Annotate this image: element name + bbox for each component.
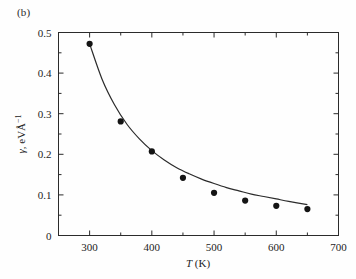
fitted-curve bbox=[90, 44, 308, 205]
data-point-marker bbox=[180, 175, 186, 181]
x-axis-tick-labels: 300400500600700 bbox=[81, 241, 347, 253]
data-point-marker bbox=[304, 206, 310, 212]
x-axis-title: T (K) bbox=[186, 257, 210, 270]
data-point-marker bbox=[242, 197, 248, 203]
y-axis-title: γ, eVÅ−1 bbox=[14, 114, 28, 153]
x-tick-label: 300 bbox=[81, 241, 98, 253]
axes-frame bbox=[59, 33, 339, 236]
y-tick-label: 0 bbox=[46, 230, 52, 242]
data-point-marker bbox=[273, 203, 279, 209]
figure-panel: (b) 300400500600700 00.10.20.30.40.5 T (… bbox=[0, 0, 356, 279]
data-point-marker bbox=[87, 41, 93, 47]
y-tick-label: 0.1 bbox=[38, 189, 52, 201]
chart-plot-area: 300400500600700 00.10.20.30.40.5 T (K) γ… bbox=[0, 0, 356, 279]
y-tick-label: 0.2 bbox=[38, 148, 52, 160]
data-point-markers bbox=[87, 41, 311, 212]
y-axis-title-text: γ, eVÅ−1 bbox=[14, 114, 28, 153]
data-point-marker bbox=[118, 118, 124, 124]
y-axis-minor-ticks bbox=[59, 53, 339, 215]
y-tick-label: 0.5 bbox=[38, 27, 52, 39]
data-point-marker bbox=[211, 190, 217, 196]
x-tick-label: 400 bbox=[144, 241, 161, 253]
y-axis-tick-labels: 00.10.20.30.40.5 bbox=[38, 27, 52, 242]
x-tick-label: 700 bbox=[330, 241, 347, 253]
data-point-marker bbox=[149, 148, 155, 154]
x-tick-label: 600 bbox=[268, 241, 285, 253]
y-tick-label: 0.4 bbox=[38, 67, 52, 79]
x-axis-title-text: T (K) bbox=[186, 257, 210, 270]
y-axis-major-ticks bbox=[59, 33, 339, 236]
x-axis-major-ticks bbox=[90, 33, 339, 236]
x-tick-label: 500 bbox=[206, 241, 223, 253]
y-tick-label: 0.3 bbox=[38, 108, 52, 120]
